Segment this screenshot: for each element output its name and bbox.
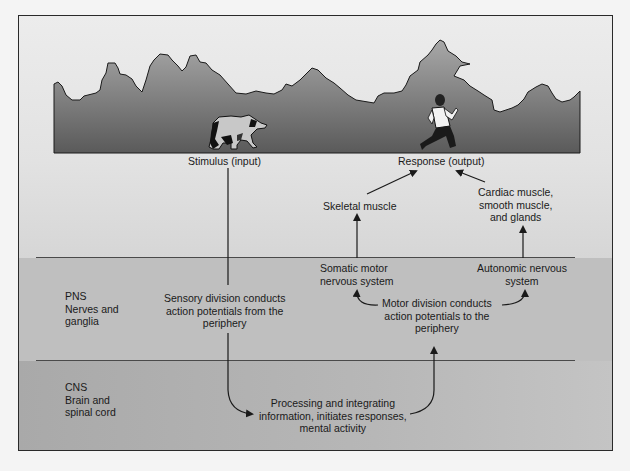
pns-desc-line-1: Nerves and [65,303,119,316]
pns-desc-line-2: ganglia [65,315,119,328]
skeletal-to-response-arrow [367,171,416,194]
somatic-line-1: Somatic motor [320,262,394,275]
sensory-line-3: periphery [164,317,285,330]
processing-line-1: Processing and integrating [259,397,407,410]
cns-desc-line-2: spinal cord [65,406,116,419]
sensory-pathway-line-lower [228,333,252,414]
processing-line-3: mental activity [259,422,407,435]
processing-line-2: information, initiates responses, [259,410,407,423]
effectors-to-response-arrow [457,171,485,182]
sensory-line-2: action potentials from the [164,305,285,318]
somatic-line-2: nervous system [320,275,394,288]
processing-label: Processing and integrating information, … [259,397,407,435]
pns-title: PNS [65,290,119,303]
motor-pathway-line [410,348,434,414]
cns-region-label: CNS Brain and spinal cord [65,381,116,419]
cns-desc-line-1: Brain and [65,394,116,407]
autonomic-label: Autonomic nervous system [477,262,567,287]
response-label: Response (output) [398,155,484,168]
motor-to-autonomic-arrow [502,291,525,305]
sensory-line-1: Sensory division conducts [164,292,285,305]
stimulus-label: Stimulus (input) [188,155,261,168]
pns-region-label: PNS Nerves and ganglia [65,290,119,328]
cns-title: CNS [65,381,116,394]
motor-line-3: periphery [382,322,492,335]
motor-division-label: Motor division conducts action potential… [382,297,492,335]
sensory-division-label: Sensory division conducts action potenti… [164,292,285,330]
somatic-motor-label: Somatic motor nervous system [320,262,394,287]
treeline-silhouette [54,40,580,153]
motor-line-2: action potentials to the [382,310,492,323]
skeletal-muscle-label: Skeletal muscle [323,200,397,213]
effectors-label: Cardiac muscle, smooth muscle, and gland… [478,186,553,224]
autonomic-line-2: system [477,275,567,288]
autonomic-line-1: Autonomic nervous [477,262,567,275]
effectors-line-3: and glands [478,211,553,224]
effectors-line-1: Cardiac muscle, [478,186,553,199]
motor-line-1: Motor division conducts [382,297,492,310]
motor-to-somatic-arrow [357,291,378,305]
effectors-line-2: smooth muscle, [478,199,553,212]
